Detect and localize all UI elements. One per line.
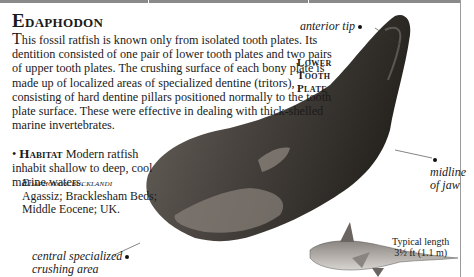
page-title: Edaphodon bbox=[12, 10, 103, 32]
habitat-label: Habitat bbox=[19, 146, 62, 161]
species-name: Edaphodon bucklandi bbox=[22, 176, 157, 190]
scale-line: Typical length bbox=[392, 236, 449, 247]
annotation-anterior-tip: anterior tip bbox=[300, 20, 365, 33]
annotation-text: midline bbox=[430, 165, 466, 179]
annotation-text: of jaw bbox=[430, 178, 460, 192]
description-body: his fossil ratfish is known only from is… bbox=[12, 33, 332, 132]
specimen-details: Agassiz; Bracklesham Beds; Middle Eocene… bbox=[22, 190, 157, 217]
annotation-text: crushing area bbox=[32, 262, 99, 276]
bullet-icon bbox=[433, 158, 437, 162]
scale-line: 3½ ft (1.1 m) bbox=[392, 247, 449, 258]
bullet-icon bbox=[125, 255, 129, 259]
plate-label: Lower Tooth Plate bbox=[297, 56, 332, 95]
annotation-midline: midlineof jaw bbox=[430, 153, 474, 192]
scale-caption: Typical length 3½ ft (1.1 m) bbox=[392, 236, 449, 258]
annotation-central-area: central specializedcrushing area bbox=[32, 250, 132, 276]
specimen-caption: Edaphodon bucklandi Agassiz; Bracklesham… bbox=[22, 176, 157, 217]
bullet-icon bbox=[358, 25, 362, 29]
annotation-text: central specialized bbox=[32, 249, 122, 263]
bullet-icon: • bbox=[12, 147, 16, 161]
drop-cap: T bbox=[12, 30, 22, 47]
annotation-text: anterior tip bbox=[300, 19, 355, 33]
plate-label-line: Tooth bbox=[297, 69, 332, 82]
description-text: This fossil ratfish is known only from i… bbox=[12, 32, 337, 132]
plate-label-line: Lower bbox=[297, 56, 332, 69]
plate-label-line: Plate bbox=[297, 82, 332, 95]
